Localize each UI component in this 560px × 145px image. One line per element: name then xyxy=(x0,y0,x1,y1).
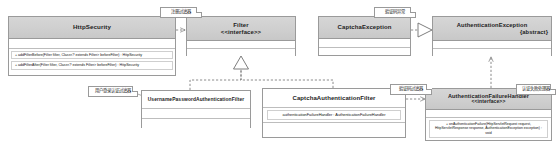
class-header-usernamepasswordauthenticationfilter: UsernamePasswordAuthenticationFilter xyxy=(142,91,250,109)
note-captchafilter[interactable]: 验证码过滤器 xyxy=(390,84,432,95)
class-abstract-tag: {abstract} xyxy=(433,29,551,35)
note-text: 验证码过滤器 xyxy=(399,87,423,92)
realization-triangle-filter xyxy=(234,56,249,69)
operation-row[interactable]: + addFilterAfter(Filter filter, Class<? … xyxy=(11,61,173,70)
relation-captchafilter-to-filter xyxy=(241,69,333,88)
class-box-filter[interactable]: Filter <<interface>> xyxy=(186,16,296,56)
attribute-compartment-authenticationexception xyxy=(433,41,551,49)
attribute-compartment-usernamepasswordauthenticationfilter xyxy=(142,109,250,119)
operation-row[interactable]: + onAuthenticationFailure(HttpServletReq… xyxy=(429,120,548,138)
attribute-compartment-captchaauthenticationfilter: authenticationFailureHandler : Authentic… xyxy=(263,108,405,123)
class-stereotype-authenticationfailurehandler: <<interface>> xyxy=(472,99,506,105)
class-name-usernamepasswordauthenticationfilter: UsernamePasswordAuthenticationFilter xyxy=(148,97,245,102)
relation-captchaexception-to-authexception xyxy=(411,23,432,37)
note-fold-icon xyxy=(132,86,138,92)
diagram-canvas: HttpSecurity + addFilterBefore(Filter fi… xyxy=(0,0,560,145)
class-box-captchaexception[interactable]: CaptchaException xyxy=(318,16,411,56)
note-captchaexception[interactable]: 验证码异常 xyxy=(374,7,416,18)
class-header-captchaauthenticationfilter: CaptchaAuthenticationFilter xyxy=(263,89,405,108)
operation-compartment-captchaauthenticationfilter xyxy=(263,123,405,137)
note-text: 用户登录认证过滤器 xyxy=(95,89,131,94)
class-header-filter: Filter <<interface>> xyxy=(187,17,295,41)
operation-compartment-usernamepasswordauthenticationfilter xyxy=(142,119,250,128)
attribute-compartment-httpsecurity xyxy=(9,39,175,49)
note-fold-icon xyxy=(426,84,432,90)
class-name-captchaauthenticationfilter: CaptchaAuthenticationFilter xyxy=(292,95,375,102)
operation-compartment-authenticationexception xyxy=(433,49,551,56)
class-name-captchaexception: CaptchaException xyxy=(338,24,392,31)
note-fold-icon xyxy=(550,84,556,90)
note-httpsecurity[interactable]: 注册过滤器 xyxy=(160,7,202,18)
class-box-usernamepasswordauthenticationfilter[interactable]: UsernamePasswordAuthenticationFilter xyxy=(141,90,251,128)
operation-row[interactable]: + addFilterBefore(Filter filter, Class<?… xyxy=(11,51,173,60)
note-text: 验证码异常 xyxy=(385,10,405,15)
attribute-row[interactable]: authenticationFailureHandler : Authentic… xyxy=(267,110,401,120)
note-text: 认证失败处理器 xyxy=(522,87,550,92)
operation-compartment-authenticationfailurehandler: + onAuthenticationFailure(HttpServletReq… xyxy=(426,118,551,140)
operation-compartment-httpsecurity: + addFilterBefore(Filter filter, Class<?… xyxy=(9,49,175,75)
class-header-httpsecurity: HttpSecurity xyxy=(9,17,175,39)
attribute-compartment-captchaexception xyxy=(319,39,410,48)
class-box-httpsecurity[interactable]: HttpSecurity + addFilterBefore(Filter fi… xyxy=(8,16,176,76)
attribute-compartment-authenticationfailurehandler xyxy=(426,110,551,118)
class-name-filter: Filter xyxy=(233,22,248,29)
class-header-authenticationexception: AuthenticationException {abstract} xyxy=(433,17,551,41)
operation-compartment-captchaexception xyxy=(319,48,410,55)
operation-compartment-filter xyxy=(187,49,295,56)
class-box-authenticationfailurehandler[interactable]: AuthenticationFailureHandler <<interface… xyxy=(425,88,552,141)
note-text: 注册过滤器 xyxy=(171,10,191,15)
class-header-captchaexception: CaptchaException xyxy=(319,17,410,39)
note-failurehandler[interactable]: 认证失败处理器 xyxy=(516,84,556,95)
relation-usernamepassword-to-filter xyxy=(190,69,241,90)
attribute-compartment-filter xyxy=(187,41,295,49)
note-fold-icon xyxy=(410,7,416,13)
class-box-captchaauthenticationfilter[interactable]: CaptchaAuthenticationFilter authenticati… xyxy=(262,88,406,138)
class-box-authenticationexception[interactable]: AuthenticationException {abstract} xyxy=(432,16,552,56)
class-stereotype-filter: <<interface>> xyxy=(221,29,261,36)
note-fold-icon xyxy=(196,7,202,13)
note-usernamepassword[interactable]: 用户登录认证过滤器 xyxy=(88,86,138,97)
class-name-httpsecurity: HttpSecurity xyxy=(73,24,111,31)
